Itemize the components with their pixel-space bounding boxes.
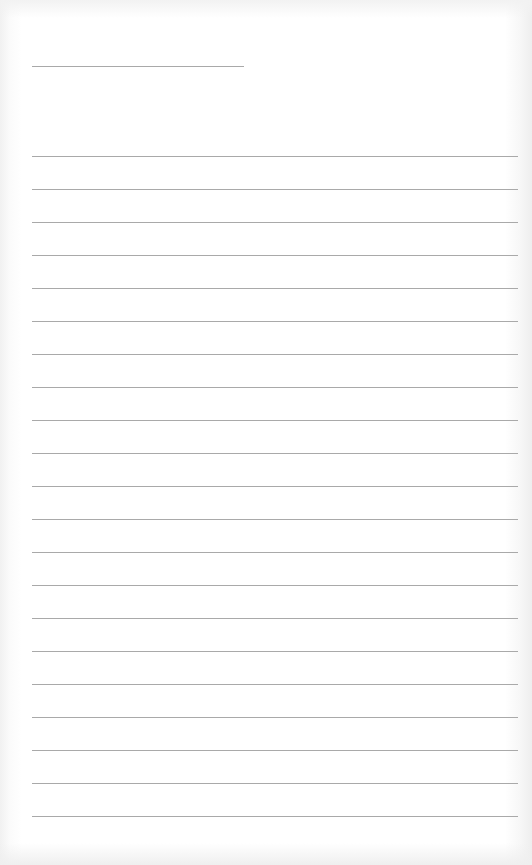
lined-paper-page (0, 0, 532, 865)
writing-line (32, 288, 518, 289)
writing-line (32, 453, 518, 454)
writing-line (32, 189, 518, 190)
writing-line (32, 387, 518, 388)
writing-line (32, 750, 518, 751)
writing-line (32, 717, 518, 718)
writing-line (32, 552, 518, 553)
writing-line (32, 816, 518, 817)
title-line (32, 66, 244, 67)
writing-line (32, 585, 518, 586)
writing-line (32, 618, 518, 619)
writing-line (32, 354, 518, 355)
writing-line (32, 486, 518, 487)
writing-line (32, 321, 518, 322)
writing-line (32, 222, 518, 223)
writing-line (32, 156, 518, 157)
writing-line (32, 651, 518, 652)
writing-line (32, 420, 518, 421)
writing-line (32, 255, 518, 256)
writing-line (32, 783, 518, 784)
writing-line (32, 684, 518, 685)
writing-line (32, 519, 518, 520)
